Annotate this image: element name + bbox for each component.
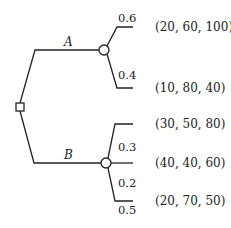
payoff-A-1: (20, 60, 100)	[155, 20, 231, 34]
edge-decision-to-B	[20, 111, 101, 163]
edge-A-outcome-1	[107, 27, 133, 46]
decision-node	[16, 103, 24, 111]
payoff-B-3: (20, 70, 50)	[155, 194, 225, 208]
decision-tree: A B 0.6 0.4 0.3 0.2 0.5 (20, 60, 100) (1…	[0, 0, 231, 228]
chance-node-A	[99, 45, 109, 55]
payoff-B-2: (40, 40, 60)	[155, 156, 225, 170]
prob-A-1: 0.6	[118, 11, 136, 25]
branch-label-B: B	[63, 148, 73, 162]
chance-node-B	[101, 158, 111, 168]
prob-B-2: 0.2	[118, 176, 136, 190]
payoff-B-1: (30, 50, 80)	[155, 117, 225, 131]
prob-A-2: 0.4	[118, 68, 136, 82]
branch-label-A: A	[63, 35, 73, 49]
prob-B-1: 0.3	[118, 140, 136, 154]
payoff-A-2: (10, 80, 40)	[155, 81, 225, 95]
edge-decision-to-A	[20, 50, 99, 103]
prob-B-3: 0.5	[118, 203, 136, 217]
